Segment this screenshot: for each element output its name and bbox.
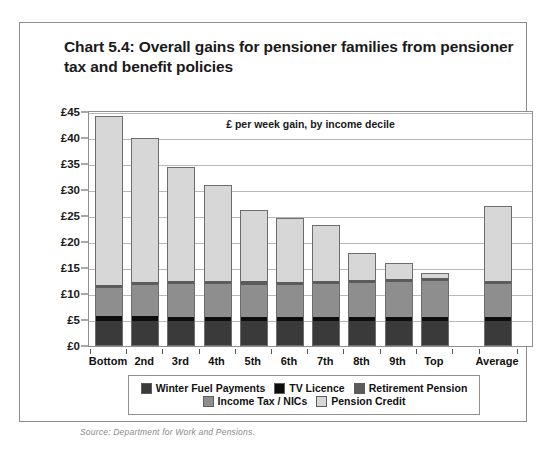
x-axis-tick bbox=[199, 349, 200, 354]
x-axis-tick bbox=[380, 349, 381, 354]
legend-row-1: Winter Fuel PaymentsTV LicenceRetirement… bbox=[133, 382, 475, 394]
bar-segment-pension-credit bbox=[485, 207, 511, 281]
bar-segment-income-tax-nics bbox=[132, 285, 158, 316]
legend-item-tv-licence[interactable]: TV Licence bbox=[274, 382, 344, 394]
bar-segment-winter-fuel-payments bbox=[422, 321, 448, 345]
bar-segment-pension-credit bbox=[132, 139, 158, 282]
bar-segment-income-tax-nics bbox=[485, 284, 511, 317]
x-axis-tick bbox=[416, 349, 417, 354]
bar-segment-winter-fuel-payments bbox=[349, 321, 375, 345]
y-axis-tick-mark bbox=[81, 242, 88, 243]
bar-segment-winter-fuel-payments bbox=[313, 321, 339, 345]
x-axis-label-bottom: Bottom bbox=[89, 355, 128, 367]
bar-4th bbox=[204, 185, 232, 346]
y-axis-tick-label: £5 bbox=[67, 314, 80, 326]
bar-segment-income-tax-nics bbox=[277, 285, 303, 317]
x-axis-tick bbox=[235, 349, 236, 354]
y-axis-tick-mark bbox=[81, 294, 88, 295]
bar-average bbox=[484, 206, 512, 346]
x-axis-label-7th: 7th bbox=[317, 355, 334, 367]
x-axis-tick bbox=[126, 349, 127, 354]
bar-7th bbox=[312, 225, 340, 346]
legend-swatch-retirement-pension bbox=[354, 383, 365, 394]
bar-8th bbox=[348, 253, 376, 346]
bar-segment-income-tax-nics bbox=[386, 282, 412, 317]
legend-swatch-income-tax-nics bbox=[203, 396, 214, 407]
y-axis-tick-label: £0 bbox=[67, 340, 80, 352]
bar-segment-income-tax-nics bbox=[349, 283, 375, 317]
x-axis-tick bbox=[479, 349, 480, 354]
x-axis-label-9th: 9th bbox=[389, 355, 406, 367]
bar-bottom bbox=[95, 116, 123, 346]
y-axis-tick-label: £45 bbox=[61, 106, 80, 118]
plot-area: £ per week gain, by income decile bbox=[88, 111, 533, 347]
x-axis-tick bbox=[517, 349, 518, 354]
bar-segment-pension-credit bbox=[168, 168, 194, 281]
y-axis-tick-label: £15 bbox=[61, 262, 80, 274]
x-axis-tick bbox=[343, 349, 344, 354]
legend-row-2: Income Tax / NICsPension Credit bbox=[133, 395, 475, 407]
x-axis-label-4th: 4th bbox=[208, 355, 225, 367]
bar-segment-pension-credit bbox=[96, 117, 122, 286]
bar-segment-pension-credit bbox=[386, 264, 412, 279]
bar-segment-winter-fuel-payments bbox=[205, 321, 231, 345]
bar-segment-income-tax-nics bbox=[96, 288, 122, 316]
x-axis-label-2nd: 2nd bbox=[134, 355, 154, 367]
x-axis-tick bbox=[271, 349, 272, 354]
y-axis-tick-label: £20 bbox=[61, 236, 80, 248]
legend-label-tv-licence: TV Licence bbox=[289, 382, 344, 394]
legend-label-retirement-pension: Retirement Pension bbox=[369, 382, 468, 394]
legend-swatch-pension-credit bbox=[316, 396, 327, 407]
legend-item-retirement-pension[interactable]: Retirement Pension bbox=[354, 382, 468, 394]
bar-segment-income-tax-nics bbox=[168, 284, 194, 317]
bar-segment-pension-credit bbox=[205, 186, 231, 282]
legend-item-pension-credit[interactable]: Pension Credit bbox=[316, 395, 405, 407]
legend-swatch-tv-licence bbox=[274, 383, 285, 394]
bar-segment-winter-fuel-payments bbox=[277, 321, 303, 345]
bar-segment-winter-fuel-payments bbox=[386, 321, 412, 345]
bar-segment-winter-fuel-payments bbox=[241, 321, 267, 345]
legend-label-pension-credit: Pension Credit bbox=[331, 395, 405, 407]
x-axis-label-average: Average bbox=[475, 355, 518, 367]
y-axis-tick-mark bbox=[81, 346, 88, 347]
chart-title: Chart 5.4: Overall gains for pensioner f… bbox=[64, 37, 514, 78]
bar-2nd bbox=[131, 138, 159, 346]
y-axis-tick-label: £40 bbox=[61, 132, 80, 144]
bar-3rd bbox=[167, 167, 195, 346]
bar-segment-winter-fuel-payments bbox=[485, 321, 511, 345]
y-axis-tick-mark bbox=[81, 320, 88, 321]
y-axis-tick-label: £35 bbox=[61, 158, 80, 170]
x-axis-tick bbox=[90, 349, 91, 354]
y-axis-tick-mark bbox=[81, 112, 88, 113]
bar-segment-pension-credit bbox=[349, 254, 375, 280]
bar-segment-income-tax-nics bbox=[205, 284, 231, 316]
bar-segment-winter-fuel-payments bbox=[132, 321, 158, 345]
y-axis-tick-mark bbox=[81, 216, 88, 217]
x-axis-label-3rd: 3rd bbox=[172, 355, 189, 367]
bar-segment-pension-credit bbox=[277, 219, 303, 281]
y-axis-tick-label: £25 bbox=[61, 210, 80, 222]
bar-segment-income-tax-nics bbox=[313, 284, 339, 317]
gridline bbox=[89, 113, 532, 114]
bar-segment-winter-fuel-payments bbox=[168, 321, 194, 345]
y-axis-tick-mark bbox=[81, 138, 88, 139]
bar-top bbox=[421, 273, 449, 346]
y-axis-tick-mark bbox=[81, 164, 88, 165]
y-axis-tick-label: £30 bbox=[61, 184, 80, 196]
bar-segment-income-tax-nics bbox=[241, 285, 267, 317]
legend-label-income-tax-nics: Income Tax / NICs bbox=[218, 395, 308, 407]
y-axis-tick-label: £10 bbox=[61, 288, 80, 300]
bar-segment-pension-credit bbox=[241, 211, 267, 282]
legend-item-winter-fuel-payments[interactable]: Winter Fuel Payments bbox=[141, 382, 266, 394]
bar-9th bbox=[385, 263, 413, 346]
bar-segment-pension-credit bbox=[313, 226, 339, 281]
legend-label-winter-fuel-payments: Winter Fuel Payments bbox=[156, 382, 266, 394]
x-axis-label-6th: 6th bbox=[281, 355, 298, 367]
x-axis-label-8th: 8th bbox=[353, 355, 370, 367]
legend-item-income-tax-nics[interactable]: Income Tax / NICs bbox=[203, 395, 308, 407]
y-axis: £0£5£10£15£20£25£30£35£40£45 bbox=[44, 103, 88, 355]
x-axis-tick bbox=[452, 349, 453, 354]
x-axis: Bottom2nd3rd4th5th6th7th8th9thTopAverage bbox=[88, 349, 533, 371]
source-note: Source: Department for Work and Pensions… bbox=[80, 427, 255, 437]
x-axis-label-5th: 5th bbox=[245, 355, 262, 367]
